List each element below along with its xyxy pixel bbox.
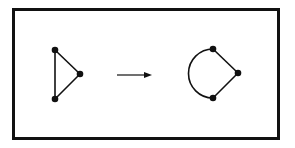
right-vertex-c	[210, 95, 217, 102]
edge-right-b-c	[213, 73, 238, 98]
left-vertex-a	[52, 47, 59, 54]
left-graph-vertices	[52, 47, 84, 103]
right-graph-vertices	[210, 46, 242, 102]
edge-right-c-a-arc	[188, 49, 213, 98]
left-triangle-graph	[55, 50, 80, 99]
edge-right-a-b	[213, 49, 238, 73]
edge-left-b-c	[55, 74, 80, 99]
left-vertex-c	[52, 96, 59, 103]
transform-arrow	[117, 72, 152, 78]
diagram-canvas	[0, 0, 295, 148]
right-curved-graph	[188, 49, 238, 98]
arrow-head-icon	[144, 72, 152, 78]
right-vertex-a	[210, 46, 217, 53]
right-vertex-b	[235, 70, 242, 77]
left-vertex-b	[77, 71, 84, 78]
edge-left-a-b	[55, 50, 80, 74]
